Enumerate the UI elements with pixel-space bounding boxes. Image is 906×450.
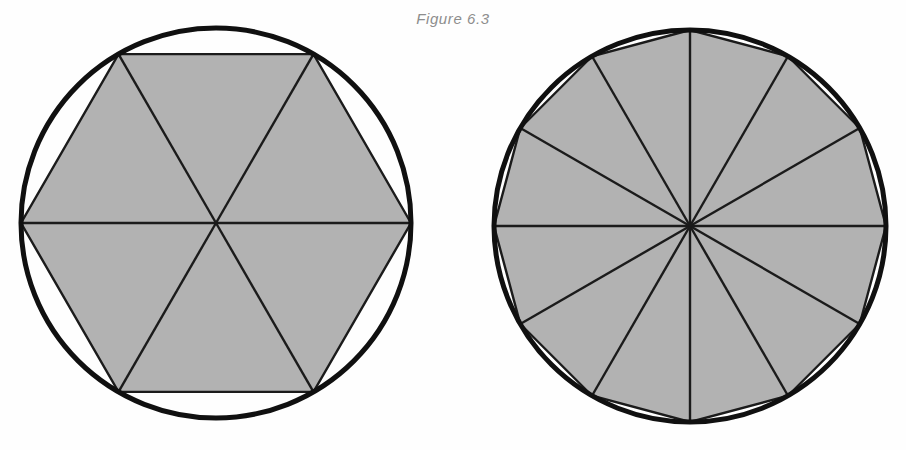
- figure-illustration: [0, 0, 906, 450]
- figure-page: Figure 6.3: [0, 0, 906, 450]
- hexagon-in-circle-figure: [21, 28, 411, 418]
- dodecagon-in-circle-figure: [494, 30, 886, 422]
- figure-caption: Figure 6.3: [0, 10, 906, 27]
